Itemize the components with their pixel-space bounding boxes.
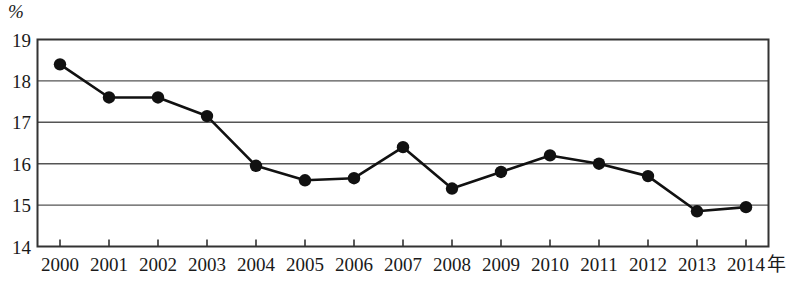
data-point [691, 205, 703, 217]
x-tick-label: 2012 [629, 255, 667, 274]
data-point [593, 158, 605, 170]
x-tick-label: 2003 [188, 255, 226, 274]
x-tick-label: 2001 [90, 255, 128, 274]
x-axis-ticks [60, 240, 746, 247]
data-point [103, 91, 115, 103]
x-tick-label: 2013 [678, 255, 716, 274]
data-point [152, 91, 164, 103]
data-point [446, 182, 458, 194]
x-tick-label: 2004 [237, 255, 275, 274]
plot-area [0, 0, 797, 285]
data-point [495, 166, 507, 178]
data-point [642, 170, 654, 182]
x-axis-name-label: 年 [767, 255, 786, 274]
series-line [60, 64, 746, 211]
data-line [60, 64, 746, 211]
data-point-markers [54, 58, 752, 217]
data-point [544, 149, 556, 161]
x-tick-label: 2000 [41, 255, 79, 274]
x-tick-label: 2006 [335, 255, 373, 274]
x-tick-label: 2011 [580, 255, 617, 274]
x-tick-label: 2009 [482, 255, 520, 274]
x-tick-label: 2014 [727, 255, 765, 274]
data-point [397, 141, 409, 153]
x-tick-label: 2005 [286, 255, 324, 274]
data-point [299, 174, 311, 186]
x-tick-label: 2007 [384, 255, 422, 274]
data-point [348, 172, 360, 184]
x-tick-label: 2010 [531, 255, 569, 274]
data-point [54, 58, 66, 70]
data-point [740, 201, 752, 213]
x-tick-label: 2008 [433, 255, 471, 274]
data-point [250, 160, 262, 172]
line-chart: % 141516171819 2000200120022003200420052… [0, 0, 797, 285]
data-point [201, 110, 213, 122]
x-tick-label: 2002 [139, 255, 177, 274]
